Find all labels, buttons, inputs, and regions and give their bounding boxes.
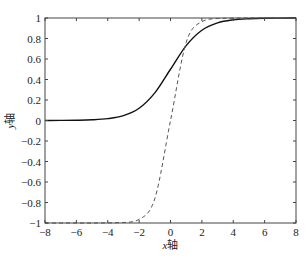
y-tick-label: −0.8 bbox=[21, 197, 41, 209]
x-tick-label: 2 bbox=[199, 226, 205, 238]
x-tick-label: 6 bbox=[262, 226, 268, 238]
x-axis-label: x轴 bbox=[162, 238, 179, 251]
y-tick-label: 0.4 bbox=[27, 74, 41, 86]
x-tick-label: −2 bbox=[133, 226, 145, 238]
y-tick-label: 0 bbox=[36, 115, 42, 127]
x-axis-ticks: −8−6−4−202468 bbox=[39, 18, 299, 238]
sigmoid-curve bbox=[45, 18, 296, 120]
x-tick-label: −4 bbox=[102, 226, 114, 238]
y-tick-label: −0.4 bbox=[21, 156, 41, 168]
x-tick-label: 4 bbox=[231, 226, 237, 238]
chart: −8−6−4−202468 −1−0.8−0.6−0.4−0.200.20.40… bbox=[0, 0, 308, 260]
plot-curves bbox=[45, 18, 296, 223]
y-tick-label: 0.6 bbox=[27, 53, 41, 65]
y-tick-label: −1 bbox=[29, 217, 41, 229]
y-tick-label: 0.8 bbox=[27, 33, 41, 45]
y-tick-label: 1 bbox=[36, 12, 42, 24]
y-tick-label: −0.2 bbox=[21, 135, 41, 147]
y-tick-label: −0.6 bbox=[21, 176, 41, 188]
y-axis-label: y轴 bbox=[3, 113, 16, 130]
x-tick-label: 8 bbox=[293, 226, 299, 238]
x-tick-label: −6 bbox=[71, 226, 83, 238]
y-tick-label: 0.2 bbox=[27, 94, 41, 106]
x-tick-label: 0 bbox=[168, 226, 174, 238]
